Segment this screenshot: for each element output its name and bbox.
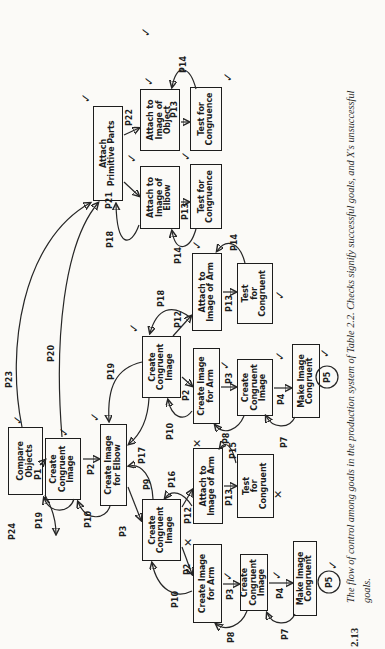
edge-label-p14: P14: [179, 56, 188, 73]
goal-box-label: for Arm: [208, 567, 216, 600]
edge-label-p4: P4: [277, 393, 286, 405]
self-loop-p5: [318, 571, 340, 593]
goal-box-create-congruent-4: CreateCongruentImage: [142, 336, 181, 398]
edge-label-p18: P18: [106, 231, 115, 248]
goal-box-attach-image-object: Attach toImage ofObject: [140, 89, 180, 151]
goal-box-create-congruent-1: CreateCongruentImage: [45, 438, 81, 500]
edge-label-p4: P4: [276, 587, 285, 599]
goal-box-attach-image-arm-fail: Attach toImage of Arm: [193, 448, 223, 524]
edge-label-p17: P17: [138, 447, 147, 464]
edge-label-p16: P16: [168, 471, 177, 488]
edge-label-p2: P2: [183, 564, 192, 575]
edge-label-p19: P19: [107, 363, 116, 380]
edge-arrow-p12: [173, 316, 191, 336]
edge-arrow-p21: [124, 182, 139, 196]
edge-label-p18: P18: [157, 290, 166, 307]
edge-label-p9: P9: [143, 478, 152, 490]
goal-box-label: Elbow: [164, 184, 172, 210]
goal-box-label: Objects: [26, 444, 34, 477]
edge-arrow-p19: [109, 362, 142, 421]
goal-box-label: Object: [164, 106, 172, 135]
check-mark: ✓: [327, 560, 339, 570]
goal-box-create-image-elbow: Create Imagefor Elbow: [100, 424, 127, 506]
edge-label-p19: P19: [35, 512, 44, 529]
check-mark: ✓: [80, 93, 92, 103]
goal-box-label: Congruent: [259, 270, 267, 316]
goal-box-label: Image: [259, 374, 267, 401]
edge-arrow-p9: [129, 466, 153, 499]
check-mark: ✓: [128, 323, 140, 333]
goal-box-make-image-congruent-2: Make ImageCongruent: [292, 344, 320, 418]
cross-mark: ✕: [273, 490, 284, 499]
check-mark: ✓: [222, 72, 234, 82]
edge-label-p3: P3: [226, 589, 235, 600]
edge-label-p13: P13: [181, 203, 190, 220]
edge-arrow-p20: [59, 203, 98, 437]
edge-arrow-p3: [128, 487, 141, 520]
goal-box-attach-primitive-parts: AttachPrimitive Parts: [93, 106, 123, 201]
check-mark: ✓: [222, 571, 234, 581]
check-mark: ✓: [274, 351, 286, 361]
goal-box-label: Primitive Parts: [108, 121, 116, 187]
goal-box-label: Image: [67, 455, 75, 482]
edge-arrow-p17: [129, 398, 149, 444]
edge-label-p3: P3: [119, 526, 128, 537]
edge-arrow-p10: [152, 563, 192, 594]
goal-box-label: for Elbow: [114, 444, 122, 486]
edge-arrow-p12: [182, 490, 192, 507]
goal-box-label: Image: [258, 569, 266, 596]
edge-arrow-p10: [168, 400, 192, 417]
goal-box-label: Image: [166, 353, 174, 380]
goal-box-label: Image of Arm: [207, 262, 215, 322]
caption-line-2: goals.: [361, 578, 372, 603]
edge-label-p8: P8: [222, 432, 231, 444]
edge-label-p14: P14: [230, 234, 239, 251]
goal-box-test-congruence-elbow: Test forCongruence: [190, 164, 222, 229]
edge-label-p10: P10: [84, 511, 93, 528]
edge-arrow-p24: [45, 495, 56, 534]
self-loop-label-p5: P5: [323, 371, 332, 383]
edge-label-p2: P2: [87, 464, 96, 475]
figure-number-text: 2.13: [348, 628, 360, 647]
edge-label-p22: P22: [125, 109, 134, 126]
goal-box-label: Image: [166, 516, 174, 543]
check-mark: ✓: [219, 360, 231, 370]
goal-box-create-congruent-5: CreateCongruentImage: [237, 359, 273, 416]
goal-box-test-congruent-fail: TestforCongruent: [237, 454, 274, 518]
goal-box-attach-image-arm-ok: Attach toImage of Arm: [192, 253, 222, 331]
check-mark: ✓: [191, 240, 203, 250]
edge-label-p12: P12: [174, 311, 183, 328]
edge-label-p23: P23: [5, 371, 14, 388]
edge-arrow-p22: [124, 128, 139, 135]
edge-label-p8: P8: [227, 631, 236, 643]
check-mark: ✓: [319, 348, 331, 358]
edge-arrow-p7: [266, 416, 295, 426]
cross-mark: ✕: [183, 538, 194, 547]
goal-box-make-image-congruent-1: Make ImageCongruent: [293, 541, 317, 616]
edge-label-p24: P24: [8, 523, 17, 540]
check-mark: ✓: [274, 290, 286, 300]
diagram-rotated-canvas: CompareObjectsCreateCongruentImageCreate…: [0, 0, 385, 649]
edge-label-p12: P12: [184, 507, 193, 524]
goal-box-test-congruence-object: Test forCongruence: [190, 87, 222, 151]
figure-number: 2.13: [344, 628, 362, 647]
edge-arrow-p18: [150, 310, 191, 333]
edge-label-p10: P10: [171, 591, 180, 608]
goal-box-label: Image of Arm: [208, 456, 216, 516]
edge-arrow-p2: [182, 377, 192, 386]
goal-box-create-image-arm-1: Create Imagefor Arm: [193, 544, 222, 623]
caption-line-1: The flow of control among goals in the p…: [345, 91, 356, 603]
edge-arrow-p23: [16, 203, 90, 427]
edge-arrow-p18: [116, 204, 139, 240]
self-loop-label-p5: P5: [325, 576, 334, 588]
check-mark: ✓: [271, 570, 283, 580]
goal-box-label: Congruent: [260, 463, 268, 509]
cross-mark: ✕: [192, 439, 203, 448]
goal-box-create-congruent-3: CreateCongruentImage: [240, 554, 268, 611]
goal-box-create-congruent-2: CreateCongruentImage: [142, 499, 181, 561]
check-mark: ✓: [58, 427, 70, 437]
edge-label-p14: P14: [174, 247, 183, 264]
check-mark: ✓: [180, 151, 192, 161]
edge-label-p2: P2: [182, 390, 191, 401]
goal-box-compare-objects: CompareObjects: [8, 427, 43, 495]
